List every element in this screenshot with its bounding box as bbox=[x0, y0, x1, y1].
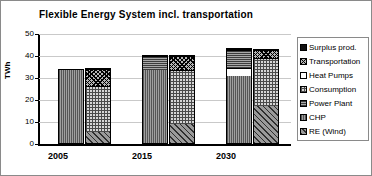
segment-surplus-prod bbox=[227, 49, 251, 50]
y-axis-line bbox=[38, 34, 40, 146]
legend-item-heat-pumps[interactable]: Heat Pumps bbox=[300, 68, 366, 82]
legend-label: Transportation bbox=[309, 57, 360, 66]
y-tick-label-30: 30 bbox=[14, 73, 34, 82]
segment-consumption bbox=[254, 58, 278, 106]
bar-2030-supply[interactable] bbox=[226, 48, 252, 144]
segment-re-wind bbox=[170, 124, 194, 143]
legend-swatch-transportation-icon bbox=[300, 58, 307, 65]
y-tickmark-20 bbox=[35, 100, 39, 101]
segment-consumption bbox=[86, 86, 110, 132]
bar-2030-demand[interactable] bbox=[253, 49, 279, 144]
y-tickmark-50 bbox=[35, 34, 39, 35]
segment-power-plant bbox=[227, 50, 251, 67]
y-tick-label-50: 50 bbox=[14, 29, 34, 38]
bar-group-2030 bbox=[226, 34, 286, 144]
legend-item-transportation[interactable]: Transportation bbox=[300, 54, 366, 68]
segment-consumption bbox=[170, 70, 194, 124]
x-tick-label-2015: 2015 bbox=[107, 151, 177, 161]
segment-re-wind bbox=[86, 132, 110, 143]
x-tick-label-2030: 2030 bbox=[191, 151, 261, 161]
legend-swatch-surplus-prod-icon bbox=[300, 44, 307, 51]
chart-title: Flexible Energy System incl. transportat… bbox=[1, 9, 291, 20]
legend-label: RE (Wind) bbox=[309, 127, 346, 136]
bar-2015-supply[interactable] bbox=[142, 55, 168, 144]
segment-power-plant bbox=[143, 56, 167, 70]
legend-label: Consumption bbox=[309, 85, 356, 94]
legend-label: Surplus prod. bbox=[309, 43, 357, 52]
segment-re-wind bbox=[254, 106, 278, 143]
legend-label: Heat Pumps bbox=[309, 71, 353, 80]
legend-swatch-power-plant-icon bbox=[300, 100, 307, 107]
legend-label: CHP bbox=[309, 113, 326, 122]
bar-2015-demand[interactable] bbox=[169, 55, 195, 144]
y-tick-label-40: 40 bbox=[14, 51, 34, 60]
bar-2005-demand[interactable] bbox=[85, 68, 111, 144]
bar-2005-supply[interactable] bbox=[58, 69, 84, 144]
legend-item-surplus-prod[interactable]: Surplus prod. bbox=[300, 40, 366, 54]
chart-frame: Flexible Energy System incl. transportat… bbox=[0, 0, 372, 176]
y-tickmark-10 bbox=[35, 122, 39, 123]
legend-item-power-plant[interactable]: Power Plant bbox=[300, 96, 366, 110]
segment-transportation bbox=[170, 56, 194, 70]
plot-area: 50 40 30 20 10 0 bbox=[38, 34, 291, 146]
legend-item-re-wind[interactable]: RE (Wind) bbox=[300, 124, 366, 138]
y-tick-label-10: 10 bbox=[14, 117, 34, 126]
segment-chp bbox=[143, 70, 167, 143]
bar-group-2015 bbox=[142, 34, 202, 144]
y-tickmark-40 bbox=[35, 56, 39, 57]
legend-swatch-chp-icon bbox=[300, 114, 307, 121]
x-axis-line bbox=[38, 144, 291, 146]
y-tickmark-30 bbox=[35, 78, 39, 79]
chart-legend: Surplus prod. Transportation Heat Pumps … bbox=[297, 37, 369, 141]
legend-swatch-consumption-icon bbox=[300, 86, 307, 93]
legend-swatch-re-wind-icon bbox=[300, 128, 307, 135]
legend-item-chp[interactable]: CHP bbox=[300, 110, 366, 124]
segment-chp bbox=[227, 76, 251, 143]
y-tick-label-20: 20 bbox=[14, 95, 34, 104]
x-tick-label-2005: 2005 bbox=[23, 151, 93, 161]
segment-heat-pumps bbox=[227, 68, 251, 77]
y-tick-label-0: 0 bbox=[14, 139, 34, 148]
segment-chp bbox=[59, 70, 83, 143]
y-axis-label: TWh bbox=[3, 62, 12, 79]
y-tickmark-0 bbox=[35, 144, 39, 145]
legend-label: Power Plant bbox=[309, 99, 352, 108]
segment-transportation bbox=[86, 69, 110, 86]
bar-group-2005 bbox=[58, 34, 118, 144]
legend-item-consumption[interactable]: Consumption bbox=[300, 82, 366, 96]
legend-swatch-heat-pumps-icon bbox=[300, 72, 307, 79]
segment-transportation bbox=[254, 50, 278, 58]
